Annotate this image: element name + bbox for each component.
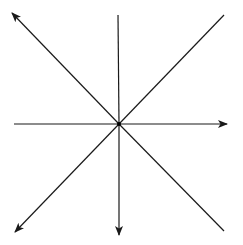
radial-arrow-diagram (0, 0, 243, 245)
ray-up-right-line (119, 15, 224, 124)
center-point (117, 122, 121, 126)
ray-up-line (118, 15, 119, 124)
ray-up-left-arrow (12, 13, 119, 124)
ray-down-right-line (119, 124, 224, 231)
ray-down-left-arrow (15, 124, 119, 232)
